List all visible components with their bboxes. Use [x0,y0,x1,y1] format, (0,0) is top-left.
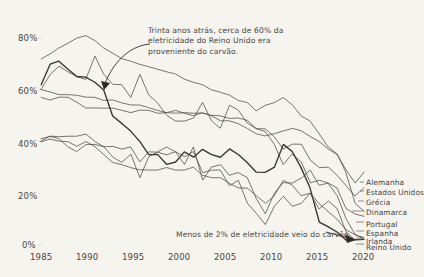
y-tick-label-80: 80% [18,33,38,43]
legend-item-portugal: Portugal [366,220,397,229]
y-tick-label-40: 40% [18,139,38,149]
annotation-uk-2020: Menos de 2% de eletricidade veio do carv… [176,230,349,239]
series-line-dinamarca [41,56,364,216]
annotation-uk-1990: Trinta anos atrás, cerca de 60% da eletr… [148,26,308,57]
legend-item-alemanha: Alemanha [366,178,404,187]
x-tick-label-2000: 2000 [168,252,190,262]
series-line-espanha [41,136,364,240]
y-tick-label-0: 0% [22,240,36,250]
x-tick-label-2015: 2015 [306,252,328,262]
x-tick-label-1995: 1995 [122,252,144,262]
y-tick-label-20: 20% [18,191,38,201]
legend-item-grecia: Grécia [366,198,390,207]
x-tick-label-2010: 2010 [260,252,282,262]
series-line-irlanda [41,139,364,237]
x-tick-label-1990: 1990 [76,252,98,262]
series-line-reino-unido [41,61,364,240]
y-tick-label-60: 60% [18,86,38,96]
x-tick-label-1985: 1985 [30,252,52,262]
legend-item-reino-unido: Reino Unido [366,243,411,252]
x-tick-label-2005: 2005 [214,252,236,262]
coal-electricity-share-chart: 80% 60% 40% 20% 0% 1985 1990 1995 2000 2… [0,0,424,277]
series-line-gr-cia [41,36,364,211]
legend-item-estados-unidos: Estados Unidos [366,188,424,197]
x-tick-label-2020: 2020 [352,252,374,262]
legend-item-dinamarca: Dinamarca [366,208,407,217]
